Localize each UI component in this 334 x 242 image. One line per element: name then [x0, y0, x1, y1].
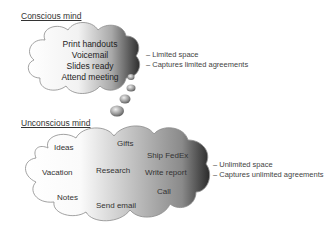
item-call: Call	[157, 187, 171, 196]
item-write-report: Write report	[145, 168, 187, 177]
unconscious-note: – Unlimited space	[213, 160, 323, 170]
item-ideas: Ideas	[54, 143, 74, 152]
conscious-item: Voicemail	[55, 50, 125, 61]
unconscious-heading: Unconscious mind	[21, 118, 90, 128]
item-ship-fedex: Ship FedEx	[147, 151, 188, 160]
conscious-note: – Captures limited agreements	[146, 60, 248, 70]
item-send-email: Send email	[96, 201, 136, 210]
item-vacation: Vacation	[42, 168, 73, 177]
conscious-note: – Limited space	[146, 50, 248, 60]
item-research: Research	[96, 166, 130, 175]
item-notes: Notes	[57, 193, 78, 202]
conscious-items: Print handouts Voicemail Slides ready At…	[55, 39, 125, 83]
item-gifts: Gifts	[117, 139, 133, 148]
unconscious-note: – Captures unlimited agreements	[213, 170, 323, 180]
conscious-item: Slides ready	[55, 61, 125, 72]
conscious-item: Attend meeting	[55, 72, 125, 83]
unconscious-notes: – Unlimited space – Captures unlimited a…	[213, 160, 323, 180]
conscious-notes: – Limited space – Captures limited agree…	[146, 50, 248, 70]
conscious-item: Print handouts	[55, 39, 125, 50]
conscious-heading: Conscious mind	[21, 11, 81, 21]
